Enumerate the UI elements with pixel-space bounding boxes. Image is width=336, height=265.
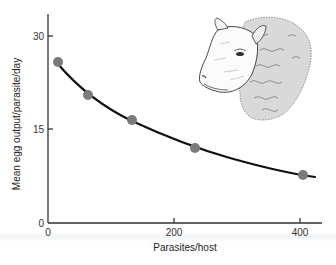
data-point [53,57,63,67]
svg-text:0: 0 [38,218,44,229]
data-point [190,143,200,153]
sheep-illustration [199,17,311,120]
svg-text:30: 30 [33,31,45,42]
data-point [298,170,308,180]
y-tick-labels: 30 15 0 [33,31,45,229]
x-axis-title: Parasites/host [153,242,217,253]
x-tick-labels: 0 200 400 [45,227,309,238]
data-point [127,115,137,125]
chart: 30 15 0 0 200 400 Parasites/host Mean eg… [0,0,336,265]
svg-text:400: 400 [292,227,309,238]
data-point [83,90,93,100]
svg-text:15: 15 [33,124,45,135]
svg-text:0: 0 [45,227,51,238]
svg-text:200: 200 [166,227,183,238]
y-axis-title: Mean egg output/parasite/day [11,58,22,190]
